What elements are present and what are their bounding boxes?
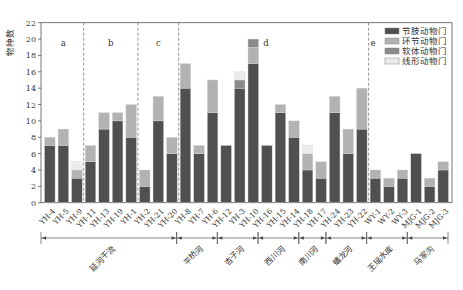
bar-stack — [139, 170, 150, 203]
bar-segment — [58, 129, 69, 145]
bar-segment — [99, 113, 110, 129]
bar-stack — [44, 137, 55, 202]
bar-segment — [370, 178, 381, 203]
bar-stack — [221, 145, 232, 202]
y-tick-label: 6 — [31, 150, 36, 159]
bar-segment — [424, 178, 435, 186]
bar-segment — [72, 170, 83, 178]
bar-segment — [112, 113, 123, 121]
bar-segment — [153, 96, 164, 121]
bar-segment — [275, 105, 286, 113]
bar-stack — [302, 145, 313, 202]
bar-segment — [72, 162, 83, 170]
bar-segment — [194, 145, 205, 153]
legend-label: 软体动物门 — [402, 46, 447, 56]
bar-segment — [397, 170, 408, 178]
group-label: 王瑶水库 — [365, 243, 395, 273]
bar-segment — [167, 154, 178, 203]
legend-label: 节肢动物门 — [402, 26, 447, 36]
bar-segment — [329, 113, 340, 203]
bar-segment — [44, 137, 55, 145]
bar-stack — [329, 96, 340, 202]
bar-segment — [139, 186, 150, 202]
bar-segment — [275, 113, 286, 203]
bar-segment — [85, 162, 96, 203]
legend: 节肢动物门环节动物门软体动物门线形动物门 — [385, 26, 447, 66]
bar-stack — [112, 113, 123, 203]
bar-segment — [316, 162, 327, 178]
group-label: 马家沟 — [412, 243, 436, 267]
bar-segment — [248, 47, 259, 63]
bar-segment — [248, 64, 259, 203]
bar-segment — [357, 129, 368, 203]
bar-segment — [126, 105, 137, 138]
bar-segment — [302, 170, 313, 203]
bar-stack — [384, 178, 395, 203]
bar-segment — [99, 129, 110, 203]
y-tick-label: 18 — [26, 51, 36, 60]
bar-segment — [126, 137, 137, 202]
bar-segment — [153, 121, 164, 203]
bar-segment — [234, 88, 245, 203]
bar-segment — [139, 170, 150, 186]
bar-segment — [44, 145, 55, 202]
bar-segment — [343, 129, 354, 154]
bar-segment — [72, 178, 83, 203]
bar-segment — [112, 121, 123, 203]
bar-segment — [438, 162, 449, 170]
y-tick-label: 10 — [26, 117, 36, 126]
bar-stack — [126, 105, 137, 203]
bar-segment — [397, 178, 408, 203]
bar-stack — [194, 145, 205, 202]
bar-segment — [302, 154, 313, 170]
bar-segment — [289, 121, 300, 137]
bar-segment — [234, 72, 245, 80]
bar-segment — [289, 137, 300, 202]
bar-stack — [343, 129, 354, 203]
legend-swatch — [385, 28, 399, 34]
panel-label: e — [371, 38, 376, 48]
bar-stack — [207, 80, 218, 203]
bar-stack — [289, 121, 300, 203]
bar-stack — [438, 162, 449, 203]
bar-stack — [316, 162, 327, 203]
y-tick-label: 8 — [31, 133, 36, 142]
y-tick-label: 2 — [31, 182, 36, 191]
bar-stack — [58, 129, 69, 203]
panel-label: b — [108, 38, 114, 48]
y-axis-label: 物种数 — [5, 29, 15, 56]
bar-segment — [384, 178, 395, 186]
panel-label: a — [61, 38, 66, 48]
bar-segment — [316, 178, 327, 203]
legend-swatch — [385, 58, 399, 64]
bar-stack — [99, 113, 110, 203]
bar-segment — [262, 145, 273, 202]
bar-stack — [234, 72, 245, 203]
stacked-bar-chart: 0246810121416182022物种数 abcde 节肢动物门环节动物门软… — [0, 0, 463, 290]
y-tick-label: 22 — [26, 19, 36, 28]
bar-stack — [167, 137, 178, 202]
bar-segment — [411, 154, 422, 203]
bar-segment — [302, 145, 313, 153]
bar-stack — [180, 64, 191, 203]
bar-segment — [221, 145, 232, 202]
bar-segment — [85, 145, 96, 161]
bar-segment — [180, 88, 191, 203]
group-brackets: 延河干流平桥河杏子河西川河南川河蟠龙河王瑶水库马家沟 — [41, 232, 448, 273]
bar-segment — [343, 154, 354, 203]
bar-segment — [424, 186, 435, 202]
y-tick-label: 16 — [26, 68, 36, 77]
legend-swatch — [385, 38, 399, 44]
bar-stack — [262, 145, 273, 202]
y-tick-label: 4 — [31, 166, 36, 175]
y-tick-label: 12 — [26, 101, 36, 110]
bar-segment — [438, 170, 449, 203]
bar-stack — [248, 39, 259, 203]
bar-segment — [234, 80, 245, 88]
bar-segment — [207, 80, 218, 113]
bar-segment — [357, 88, 368, 129]
bar-stack — [72, 162, 83, 203]
bar-stack — [357, 88, 368, 203]
group-label: 南川河 — [296, 243, 320, 267]
bar-stack — [275, 105, 286, 203]
